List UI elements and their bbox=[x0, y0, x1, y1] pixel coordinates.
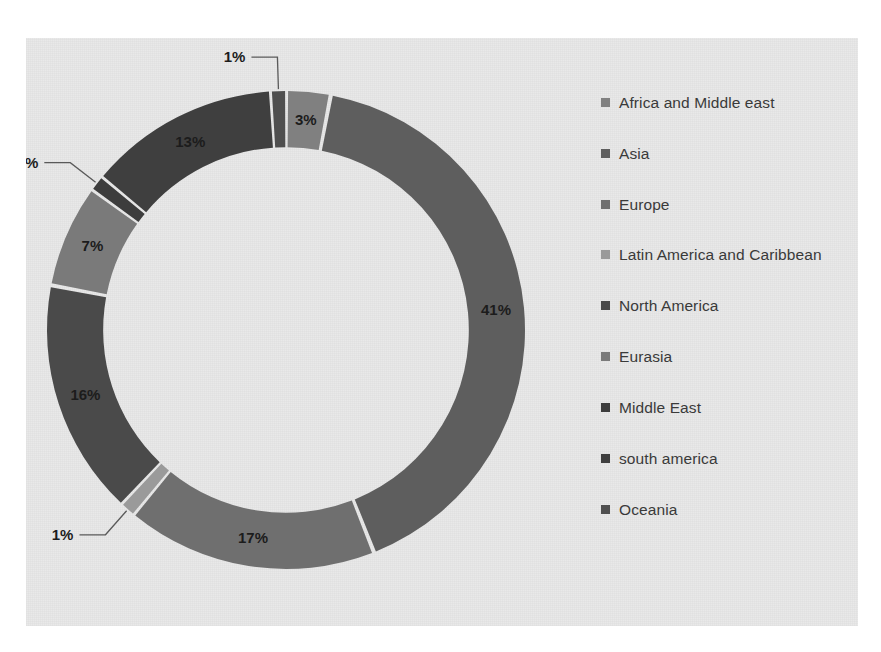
data-label: 41% bbox=[481, 301, 511, 318]
data-label: 1% bbox=[224, 48, 246, 65]
data-label: 1% bbox=[26, 154, 38, 171]
legend-swatch-icon bbox=[601, 301, 610, 310]
doughnut-svg: 3%41%17%1%16%7%1%13%1% bbox=[26, 38, 586, 626]
legend-item[interactable]: south america bbox=[601, 449, 856, 469]
pie-slice[interactable] bbox=[103, 92, 273, 213]
legend-item[interactable]: Latin America and Caribbean bbox=[601, 245, 856, 265]
legend-swatch-icon bbox=[601, 505, 610, 514]
legend-swatch-icon bbox=[601, 98, 610, 107]
data-label: 7% bbox=[82, 237, 104, 254]
data-label: 3% bbox=[295, 111, 317, 128]
leader-line bbox=[251, 57, 278, 89]
legend-item[interactable]: Eurasia bbox=[601, 347, 856, 367]
leader-line bbox=[79, 511, 126, 535]
legend-swatch-icon bbox=[601, 352, 610, 361]
legend-item[interactable]: Asia bbox=[601, 144, 856, 164]
legend-item-label: Asia bbox=[619, 144, 650, 164]
chart-panel: 3%41%17%1%16%7%1%13%1% Africa and Middle… bbox=[26, 38, 858, 626]
legend-item[interactable]: North America bbox=[601, 296, 856, 316]
legend-item-label: Oceania bbox=[619, 500, 677, 520]
legend-swatch-icon bbox=[601, 403, 610, 412]
data-label: 16% bbox=[70, 386, 100, 403]
pie-slice[interactable] bbox=[272, 91, 285, 147]
data-label: 13% bbox=[175, 133, 205, 150]
legend-item-label: North America bbox=[619, 296, 719, 316]
legend-item[interactable]: Europe bbox=[601, 195, 856, 215]
legend-item-label: Africa and Middle east bbox=[619, 93, 775, 113]
legend-item-label: Middle East bbox=[619, 398, 701, 418]
pie-slice[interactable] bbox=[322, 96, 525, 552]
legend-item-label: Eurasia bbox=[619, 347, 672, 367]
doughnut-chart: 3%41%17%1%16%7%1%13%1% bbox=[26, 38, 586, 626]
legend-item-label: south america bbox=[619, 449, 718, 469]
data-label: 17% bbox=[238, 529, 268, 546]
pie-slice[interactable] bbox=[47, 287, 160, 503]
legend: Africa and Middle eastAsiaEuropeLatin Am… bbox=[601, 93, 856, 550]
legend-swatch-icon bbox=[601, 454, 610, 463]
legend-swatch-icon bbox=[601, 250, 610, 259]
data-label: 1% bbox=[52, 526, 74, 543]
legend-item[interactable]: Oceania bbox=[601, 500, 856, 520]
slice-group bbox=[47, 91, 525, 569]
legend-swatch-icon bbox=[601, 149, 610, 158]
legend-swatch-icon bbox=[601, 200, 610, 209]
pie-slice[interactable] bbox=[135, 472, 372, 569]
legend-item-label: Europe bbox=[619, 195, 670, 215]
legend-item[interactable]: Middle East bbox=[601, 398, 856, 418]
legend-item-label: Latin America and Caribbean bbox=[619, 245, 822, 265]
legend-item[interactable]: Africa and Middle east bbox=[601, 93, 856, 113]
leader-line bbox=[44, 163, 95, 183]
